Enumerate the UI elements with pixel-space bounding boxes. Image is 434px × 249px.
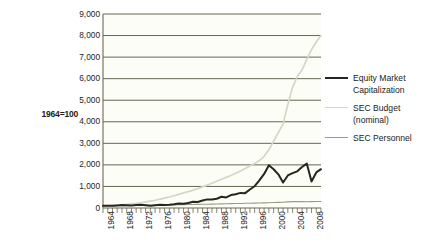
legend-swatch-sec-personnel: [325, 133, 348, 143]
x-axis-tick-labels: 1964196819721976198019841988199219962000…: [103, 208, 321, 249]
x-tick-label: 1984: [201, 211, 211, 229]
x-tick-label: 1980: [182, 211, 192, 229]
x-tick-label: 1964: [106, 211, 116, 229]
chart-legend: Equity Market CapitalizationSEC Budget (…: [325, 73, 433, 152]
series-lines: [103, 14, 321, 208]
y-tick-label: 4,000: [66, 116, 100, 126]
legend-item-equity-market-capitalization[interactable]: Equity Market Capitalization: [325, 73, 433, 96]
chart-container: 1964=100 9,0008,0007,0006,0005,0004,0003…: [0, 0, 434, 249]
legend-label-sec-budget-nominal: SEC Budget (nominal): [353, 103, 431, 126]
x-tick-label: 1976: [163, 211, 173, 229]
y-tick-label: 0: [66, 203, 100, 213]
legend-item-sec-budget-nominal[interactable]: SEC Budget (nominal): [325, 103, 433, 126]
legend-item-sec-personnel[interactable]: SEC Personnel: [325, 133, 433, 145]
x-tick-label: 1992: [239, 211, 249, 229]
y-tick-label: 9,000: [66, 9, 100, 19]
x-tick-label: 2004: [296, 211, 306, 229]
y-tick-label: 2,000: [66, 159, 100, 169]
x-tick-label: 1996: [258, 211, 268, 229]
legend-swatch-equity-market-capitalization: [325, 73, 348, 83]
x-tick-label: 1968: [125, 211, 135, 229]
y-axis-tick-labels: 9,0008,0007,0006,0005,0004,0003,0002,000…: [62, 14, 100, 208]
y-tick-label: 8,000: [66, 30, 100, 40]
legend-label-sec-personnel: SEC Personnel: [353, 133, 412, 145]
y-tick-label: 1,000: [66, 181, 100, 191]
x-tick-label: 1972: [144, 211, 154, 229]
x-tick-label: 1988: [220, 211, 230, 229]
series-line-sec-budget-nominal: [103, 36, 321, 206]
plot-wrap: [103, 14, 321, 208]
x-tick-label: 2008: [315, 211, 325, 229]
y-tick-label: 6,000: [66, 73, 100, 83]
legend-swatch-sec-budget-nominal: [325, 103, 348, 113]
y-tick-label: 7,000: [66, 52, 100, 62]
y-tick-label: 3,000: [66, 138, 100, 148]
legend-label-equity-market-capitalization: Equity Market Capitalization: [353, 73, 431, 96]
y-tick-label: 5,000: [66, 95, 100, 105]
series-line-equity-market-capitalization: [103, 164, 321, 206]
x-tick-label: 2000: [277, 211, 287, 229]
